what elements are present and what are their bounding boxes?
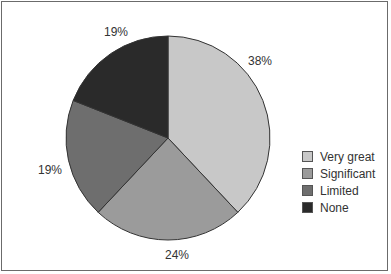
legend-item-significant: Significant (302, 165, 375, 182)
swatch-none (302, 202, 313, 213)
label-very-great: 38% (248, 54, 272, 68)
legend-item-limited: Limited (302, 182, 375, 199)
pie-chart (0, 0, 391, 274)
label-significant: 24% (165, 248, 189, 262)
legend-label: Very great (320, 150, 375, 164)
legend-label: Limited (320, 184, 359, 198)
swatch-significant (302, 168, 313, 179)
legend-label: None (320, 201, 349, 215)
swatch-limited (302, 185, 313, 196)
legend: Very great Significant Limited None (302, 148, 375, 216)
swatch-very-great (302, 151, 313, 162)
label-none: 19% (104, 25, 128, 39)
legend-label: Significant (320, 167, 375, 181)
legend-item-very-great: Very great (302, 148, 375, 165)
legend-item-none: None (302, 199, 375, 216)
label-limited: 19% (38, 163, 62, 177)
